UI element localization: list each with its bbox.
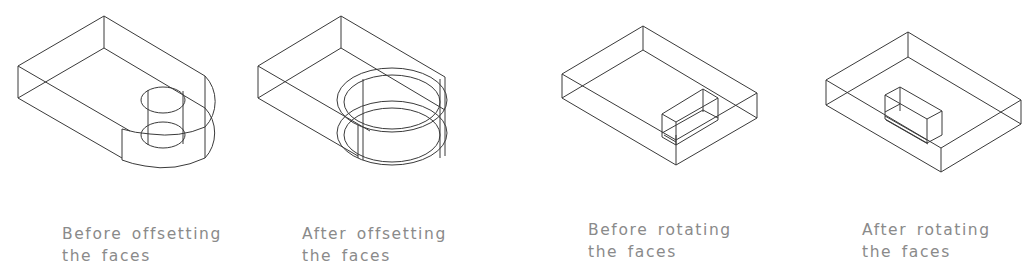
caption-line-2: the faces <box>302 245 447 267</box>
caption-line-1: Before offsetting <box>62 223 222 245</box>
caption-after-offsetting: After offsetting the faces <box>302 223 447 267</box>
caption-before-rotating: Before rotating the faces <box>588 219 732 263</box>
figure-before-rotating <box>562 26 757 165</box>
caption-line-1: Before rotating <box>588 219 732 241</box>
caption-line-1: After offsetting <box>302 223 447 245</box>
figure-before-offsetting <box>18 16 215 168</box>
figure-after-rotating <box>826 32 1021 172</box>
caption-line-1: After rotating <box>862 219 991 241</box>
caption-line-2: the faces <box>588 241 732 263</box>
figure-after-offsetting <box>258 16 447 165</box>
caption-line-2: the faces <box>862 241 991 263</box>
caption-line-2: the faces <box>62 245 222 267</box>
caption-after-rotating: After rotating the faces <box>862 219 991 263</box>
caption-before-offsetting: Before offsetting the faces <box>62 223 222 267</box>
